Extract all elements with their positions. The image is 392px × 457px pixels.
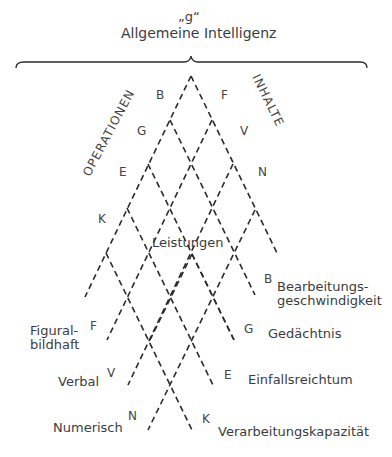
op-label-einfall: Einfallsreichtum — [248, 373, 353, 387]
content-label-verbal: Verbal — [58, 375, 99, 389]
content-node-n: N — [258, 166, 267, 178]
content-node-v-bottom: V — [107, 367, 115, 379]
op-label-verarbeitung: Verarbeitungskapazität — [218, 425, 369, 439]
op-node-g-bottom: G — [244, 323, 253, 335]
g-factor-label: „g“ — [178, 10, 200, 24]
op-label-gedaechtnis: Gedächtnis — [268, 327, 341, 341]
op-node-k: K — [98, 213, 106, 225]
brace — [16, 56, 367, 68]
content-label-numerisch: Numerisch — [53, 421, 123, 435]
op-node-b-bottom: B — [264, 273, 272, 285]
content-node-f-bottom: F — [90, 320, 97, 332]
content-node-f: F — [221, 89, 228, 101]
op-label-bearbeitung: Bearbeitungs- geschwindigkeit — [277, 280, 382, 308]
center-label: Leistungen — [152, 236, 223, 250]
content-label-figural: Figural- bildhaft — [30, 324, 79, 352]
op-node-b: B — [156, 89, 164, 101]
op-node-e: E — [119, 166, 127, 178]
content-node-n-bottom: N — [128, 410, 137, 422]
diagram-title: Allgemeine Intelligenz — [121, 26, 276, 40]
op-node-g: G — [137, 125, 146, 137]
op-node-e-bottom: E — [224, 369, 232, 381]
op-node-k-bottom: K — [202, 413, 210, 425]
content-node-v: V — [240, 125, 248, 137]
